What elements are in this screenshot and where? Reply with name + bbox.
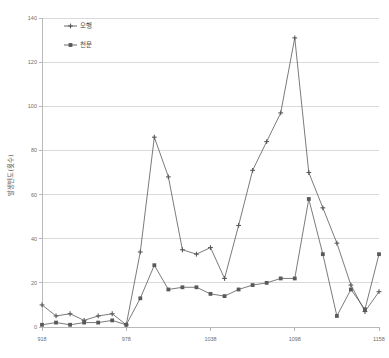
legend-label: 오행	[80, 21, 92, 30]
x-tick-label: 918	[37, 336, 46, 342]
series-1	[40, 35, 382, 327]
y-tick-label: 60	[31, 192, 37, 198]
legend-item-1[interactable]: 오행	[64, 21, 92, 30]
x-tick-label: 1098	[289, 336, 301, 342]
x-tick-label: 1158	[373, 336, 385, 342]
y-axis-ticks: 020406080100120140	[28, 15, 42, 330]
y-tick-label: 0	[34, 324, 37, 330]
y-axis-title: 발생빈도(횟수)	[6, 154, 15, 195]
grid-lines	[42, 18, 379, 283]
series-markers	[40, 197, 381, 327]
y-tick-label: 140	[28, 15, 37, 21]
series-markers	[40, 35, 382, 327]
series-2	[40, 197, 381, 327]
y-tick-label: 40	[31, 236, 37, 242]
x-axis-ticks: 918978103810981158	[37, 327, 385, 342]
series-line	[42, 199, 379, 325]
y-tick-label: 20	[31, 280, 37, 286]
legend-item-2[interactable]: 천문	[64, 40, 92, 49]
legend: 오행천문	[64, 21, 92, 49]
series-group	[40, 35, 382, 327]
x-tick-label: 978	[122, 336, 131, 342]
y-tick-label: 120	[28, 59, 37, 65]
y-tick-label: 80	[31, 147, 37, 153]
series-line	[42, 38, 379, 325]
x-tick-label: 1038	[204, 336, 216, 342]
y-tick-label: 100	[28, 103, 37, 109]
legend-label: 천문	[80, 40, 92, 49]
line-chart: 020406080100120140 918978103810981158 오행…	[0, 0, 389, 358]
chart-page: 020406080100120140 918978103810981158 오행…	[0, 0, 389, 358]
